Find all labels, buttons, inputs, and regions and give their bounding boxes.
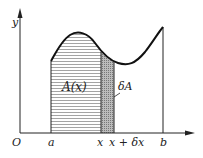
- strip-label: δA: [118, 81, 133, 92]
- y-axis-arrow: [18, 8, 23, 18]
- y-axis-label: y: [12, 17, 18, 28]
- area-label: A(x): [62, 81, 87, 93]
- area-diagram: [0, 0, 203, 158]
- tick-a: a: [48, 137, 55, 148]
- origin-label: O: [12, 137, 21, 148]
- x-axis-arrow: [185, 131, 195, 136]
- tick-b: b: [160, 137, 167, 148]
- strip-region: [101, 52, 114, 133]
- tick-x-plus-dx: x + δx: [109, 137, 144, 148]
- tick-x: x: [97, 137, 103, 148]
